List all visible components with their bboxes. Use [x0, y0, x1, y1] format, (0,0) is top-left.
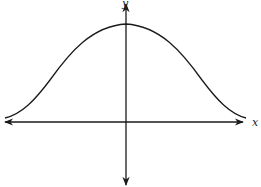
x-axis-label: x	[252, 116, 259, 129]
y-axis-label: y	[121, 0, 129, 10]
graph-canvas: x y	[0, 0, 261, 187]
